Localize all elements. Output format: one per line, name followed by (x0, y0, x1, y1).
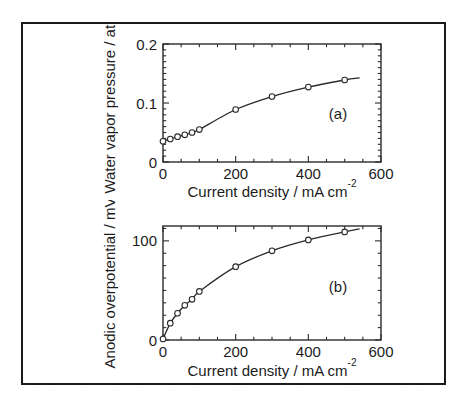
data-point-marker (197, 289, 203, 295)
x-tick-label: 200 (223, 343, 248, 360)
y-axis-title: Water vapor pressure / atm (101, 22, 118, 194)
panel-a: 020040060000.10.2(a)Current density / mA… (21, 22, 446, 204)
data-point-marker (160, 139, 166, 145)
data-point-marker (342, 77, 348, 83)
plot-a-svg: 020040060000.10.2(a)Current density / mA… (21, 22, 446, 204)
x-tick-label: 400 (296, 343, 321, 360)
panel-tag: (b) (329, 278, 347, 295)
data-point-marker (269, 94, 275, 100)
data-point-marker (182, 132, 188, 138)
data-point-marker (189, 130, 195, 136)
data-point-marker (233, 107, 239, 113)
panel-tag: (a) (329, 105, 347, 122)
y-tick-label: 0 (149, 154, 157, 171)
panel-b: 02004006000100(b)Current density / mA cm… (21, 200, 446, 385)
x-tick-label: 600 (368, 165, 393, 182)
y-tick-label: 100 (132, 232, 157, 249)
data-point-marker (167, 320, 173, 326)
y-tick-label: 0.2 (136, 36, 157, 53)
x-tick-label: 0 (159, 165, 167, 182)
x-tick-label: 600 (368, 343, 393, 360)
y-axis-title: Anodic overpotential / mV (101, 200, 118, 368)
x-tick-label: 200 (223, 165, 248, 182)
data-point-marker (189, 297, 195, 303)
x-tick-label: 400 (296, 165, 321, 182)
y-tick-label: 0.1 (136, 95, 157, 112)
data-point-marker (175, 310, 181, 316)
data-point-marker (175, 134, 181, 140)
data-point-marker (182, 303, 188, 309)
x-tick-label: 0 (159, 343, 167, 360)
data-point-marker (233, 264, 239, 270)
data-point-marker (269, 248, 275, 254)
y-tick-label: 0 (149, 332, 157, 349)
data-point-marker (306, 237, 312, 243)
data-point-marker (160, 336, 166, 342)
x-axis-title: Current density / mA cm-2 (188, 357, 357, 380)
data-point-marker (342, 229, 348, 235)
figure-root: 020040060000.10.2(a)Current density / mA… (0, 0, 464, 408)
data-point-marker (197, 127, 203, 133)
data-point-marker (167, 136, 173, 142)
x-axis-title: Current density / mA cm-2 (188, 178, 357, 201)
plot-b-svg: 02004006000100(b)Current density / mA cm… (21, 200, 446, 385)
data-point-marker (306, 84, 312, 90)
